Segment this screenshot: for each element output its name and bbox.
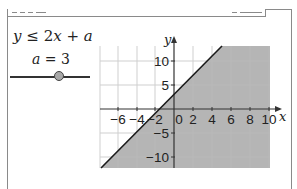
svg-text:−10: −10: [146, 150, 169, 165]
y-axis-arrow-icon: [171, 36, 177, 43]
svg-text:−2: −2: [147, 112, 162, 127]
svg-text:4: 4: [208, 112, 216, 127]
svg-text:−5: −5: [154, 126, 169, 141]
svg-text:−6: −6: [110, 112, 125, 127]
svg-text:6: 6: [227, 112, 235, 127]
svg-text:2: 2: [189, 112, 197, 127]
svg-text:10: 10: [154, 54, 169, 69]
y-axis-label: y: [163, 32, 172, 47]
svg-text:8: 8: [246, 112, 254, 127]
svg-text:5: 5: [161, 78, 169, 93]
svg-text:−4: −4: [129, 112, 145, 127]
svg-text:0: 0: [175, 112, 183, 127]
x-axis-label: x: [279, 109, 287, 124]
x-tick-labels: −6 −4 −2 0 2 4 6 8 10: [110, 112, 276, 127]
svg-text:10: 10: [261, 112, 276, 127]
graph-view[interactable]: −6 −4 −2 0 2 4 6 8 10 10 5 −5 −10 x y: [0, 0, 297, 189]
